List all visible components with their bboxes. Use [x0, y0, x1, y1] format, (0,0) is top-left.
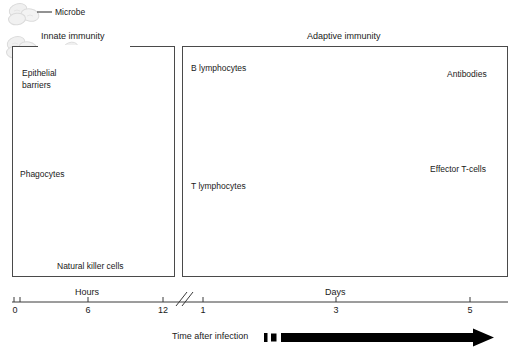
epithelial-barriers-label-line1: Epithelial: [22, 68, 57, 79]
effector-t-cells-label: Effector T-cells: [430, 164, 486, 175]
adaptive-immunity-panel: [182, 46, 508, 277]
b-lymphocytes-label: B lymphocytes: [191, 63, 246, 74]
adaptive-immunity-title: Adaptive immunity: [307, 31, 381, 42]
microbe-callout-label: Microbe: [55, 7, 85, 18]
innate-panel-title-gap: [38, 45, 130, 48]
hours-segment-label: Hours: [75, 287, 99, 297]
immune-response-figure: Microbe Innate immunity Adaptive immunit…: [0, 0, 520, 353]
tick-label-0: 0: [8, 305, 22, 315]
antibodies-label: Antibodies: [447, 69, 487, 80]
tick-label-3: 3: [329, 305, 343, 315]
tick-label-6: 6: [81, 305, 95, 315]
microbe-icon: [8, 1, 52, 25]
t-lymphocytes-label: T lymphocytes: [191, 181, 246, 192]
tick-label-5: 5: [463, 305, 477, 315]
tick-label-1: 1: [196, 305, 210, 315]
phagocytes-label: Phagocytes: [20, 169, 64, 180]
time-direction-arrow: [264, 329, 494, 347]
tick-label-12: 12: [154, 305, 172, 315]
time-after-infection-caption: Time after infection: [172, 331, 248, 342]
innate-immunity-title: Innate immunity: [41, 31, 105, 42]
days-segment-label: Days: [325, 287, 346, 297]
natural-killer-cells-label: Natural killer cells: [57, 261, 124, 272]
epithelial-barriers-label-line2: barriers: [22, 80, 51, 91]
